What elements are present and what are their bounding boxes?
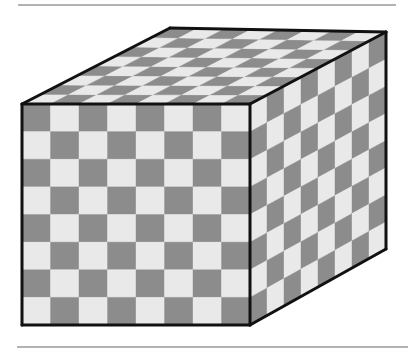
checker-cell xyxy=(165,297,194,325)
checker-cell xyxy=(22,159,51,187)
checker-cell xyxy=(108,132,137,160)
checker-cell xyxy=(108,159,137,187)
checker-cell xyxy=(22,270,51,298)
checker-cell xyxy=(222,132,251,160)
checker-cell xyxy=(222,270,251,298)
checker-cell xyxy=(193,215,222,243)
checker-cell xyxy=(136,242,165,270)
checker-cell xyxy=(108,104,137,132)
checker-cell xyxy=(136,187,165,215)
checker-cell xyxy=(51,159,80,187)
checker-cell xyxy=(51,297,80,325)
checker-cell xyxy=(108,187,137,215)
checker-cell xyxy=(22,242,51,270)
checker-cell xyxy=(79,297,108,325)
checker-cell xyxy=(22,297,51,325)
cube-front-face xyxy=(22,104,250,325)
checker-cell xyxy=(222,159,251,187)
checker-cell xyxy=(136,132,165,160)
checker-cell xyxy=(193,297,222,325)
checker-cell xyxy=(79,215,108,243)
checker-cell xyxy=(165,242,194,270)
checker-cell xyxy=(22,215,51,243)
checker-cell xyxy=(51,187,80,215)
checker-cell xyxy=(108,297,137,325)
checker-cell xyxy=(51,270,80,298)
checker-cell xyxy=(51,215,80,243)
checker-cell xyxy=(165,159,194,187)
checker-cell xyxy=(193,104,222,132)
checker-cell xyxy=(165,132,194,160)
checkerboard-cube-figure xyxy=(0,0,408,352)
checker-cell xyxy=(222,215,251,243)
checker-cell xyxy=(193,132,222,160)
checker-cell xyxy=(22,132,51,160)
checker-cell xyxy=(165,104,194,132)
checker-cell xyxy=(222,104,251,132)
cube-drawing xyxy=(0,0,408,352)
checker-cell xyxy=(79,187,108,215)
checker-cell xyxy=(136,215,165,243)
checker-cell xyxy=(193,270,222,298)
checker-cell xyxy=(136,270,165,298)
checker-cell xyxy=(51,132,80,160)
checker-cell xyxy=(108,242,137,270)
checker-cell xyxy=(136,104,165,132)
checker-cell xyxy=(79,132,108,160)
checker-cell xyxy=(51,104,80,132)
checker-cell xyxy=(79,104,108,132)
checker-cell xyxy=(108,215,137,243)
checker-cell xyxy=(193,242,222,270)
checker-cell xyxy=(193,187,222,215)
checker-cell xyxy=(165,215,194,243)
checker-cell xyxy=(222,297,251,325)
checker-cell xyxy=(165,270,194,298)
checker-cell xyxy=(79,270,108,298)
checker-cell xyxy=(51,242,80,270)
checker-cell xyxy=(22,104,51,132)
checker-cell xyxy=(165,187,194,215)
checker-cell xyxy=(222,187,251,215)
checker-cell xyxy=(108,270,137,298)
checker-cell xyxy=(222,242,251,270)
checker-cell xyxy=(136,159,165,187)
checker-cell xyxy=(136,297,165,325)
checker-cell xyxy=(22,187,51,215)
checker-cell xyxy=(79,159,108,187)
checker-cell xyxy=(79,242,108,270)
checker-cell xyxy=(193,159,222,187)
